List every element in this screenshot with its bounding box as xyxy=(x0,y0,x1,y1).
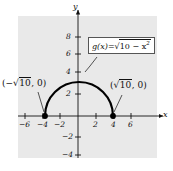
callout-radicand: 10 − x2 xyxy=(119,39,151,51)
graph-figure: g(x)=√10 − x2 (−√10, 0) (√10, 0) y x −6 … xyxy=(0,0,173,171)
y-tick-label--2: −2 xyxy=(62,132,73,141)
right-intercept-label: (√10, 0) xyxy=(110,79,147,90)
y-tick-label--4: −4 xyxy=(62,150,73,159)
left-label-leader-line xyxy=(38,92,44,112)
x-tick-label-2: 2 xyxy=(93,120,98,129)
x-tick-label-4: 4 xyxy=(111,120,116,129)
callout-equals: = xyxy=(108,42,115,51)
y-tick-label-2: 2 xyxy=(66,89,71,98)
x-tick-label-6: 6 xyxy=(128,120,133,129)
x-tick-label--2: −2 xyxy=(54,120,65,129)
y-tick-label-4: 4 xyxy=(66,67,71,76)
callout-function-name: g(x) xyxy=(92,42,108,51)
function-callout-box: g(x)=√10 − x2 xyxy=(88,37,155,54)
callout-exponent: 2 xyxy=(146,40,150,46)
y-axis-label: y xyxy=(73,2,78,11)
right-endpoint-dot xyxy=(110,113,116,119)
x-tick-label--6: −6 xyxy=(19,120,30,129)
x-tick-label--4: −4 xyxy=(37,120,48,129)
y-tick-label-8: 8 xyxy=(66,32,71,41)
x-axis-label: x xyxy=(163,110,168,119)
y-tick-label-6: 6 xyxy=(66,49,71,58)
function-curve xyxy=(45,82,113,116)
left-endpoint-dot xyxy=(42,113,48,119)
callout-leader-line xyxy=(85,57,97,72)
right-label-leader-line xyxy=(114,95,122,112)
left-intercept-label: (−√10, 0) xyxy=(2,77,46,88)
